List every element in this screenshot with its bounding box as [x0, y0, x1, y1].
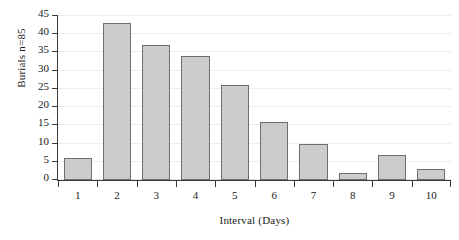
y-axis-tick-mark	[52, 88, 58, 89]
x-axis-tick-mark	[58, 181, 59, 187]
y-axis-tick-label: 0	[44, 172, 50, 183]
bar-slot	[372, 16, 411, 180]
bar[interactable]	[181, 56, 209, 180]
x-axis-tick-label: 1	[58, 189, 97, 202]
x-axis-tick-label: 10	[412, 189, 451, 202]
y-axis-tick-mark	[52, 33, 58, 34]
x-axis-tick-mark	[372, 181, 373, 187]
y-axis-tick-label: 30	[38, 63, 49, 74]
x-axis-tick-mark	[255, 181, 256, 187]
x-axis-tick-mark	[412, 181, 413, 187]
y-axis-tick-mark	[52, 124, 58, 125]
bar[interactable]	[142, 45, 170, 180]
bar[interactable]	[260, 122, 288, 180]
bar-slot	[412, 16, 451, 180]
y-axis-tick-label: 25	[38, 81, 49, 92]
bar[interactable]	[339, 173, 367, 180]
x-axis-tick-label: 7	[294, 189, 333, 202]
x-axis-tick-label: 6	[254, 189, 293, 202]
bar-slot	[97, 16, 136, 180]
x-axis-tick-label: 4	[176, 189, 215, 202]
bar[interactable]	[378, 155, 406, 181]
bar-slot	[176, 16, 215, 180]
y-axis-tick-mark	[52, 70, 58, 71]
x-axis-tick-mark	[176, 181, 177, 187]
x-axis-tick-mark	[450, 181, 451, 187]
y-axis-tick-label: 20	[38, 99, 49, 110]
x-axis-tick-labels: 12345678910	[58, 189, 451, 202]
bar[interactable]	[299, 144, 327, 180]
y-axis-tick-mark	[52, 51, 58, 52]
x-axis-tick-mark	[333, 181, 334, 187]
x-axis-tick-mark	[215, 181, 216, 187]
y-axis-tick-mark	[52, 15, 58, 16]
bar[interactable]	[417, 169, 445, 180]
bar-slot	[137, 16, 176, 180]
bars-layer	[58, 16, 451, 180]
y-axis-tick-mark	[52, 143, 58, 144]
y-axis-tick-label: 10	[38, 136, 49, 147]
plot-area	[58, 16, 451, 180]
x-axis-tick-label: 2	[97, 189, 136, 202]
x-axis-tick-label: 5	[215, 189, 254, 202]
bar[interactable]	[103, 23, 131, 180]
y-axis-tick-label: 40	[38, 26, 49, 37]
bar-slot	[215, 16, 254, 180]
y-axis-ticks: 051015202530354045	[0, 16, 58, 180]
x-axis-title: Interval (Days)	[58, 214, 451, 226]
x-axis-tick-label: 3	[137, 189, 176, 202]
x-axis-tick-label: 8	[333, 189, 372, 202]
x-axis-tick-mark	[294, 181, 295, 187]
bar-slot	[58, 16, 97, 180]
y-axis-tick-mark	[52, 106, 58, 107]
x-axis-tick-mark	[137, 181, 138, 187]
x-axis-tick-mark	[97, 181, 98, 187]
x-axis-tick-label: 9	[372, 189, 411, 202]
bar[interactable]	[221, 85, 249, 180]
bar[interactable]	[64, 158, 92, 180]
y-axis-tick-label: 5	[44, 154, 50, 165]
bar-slot	[294, 16, 333, 180]
y-axis-tick-label: 15	[38, 117, 49, 128]
y-axis-tick-mark	[52, 161, 58, 162]
bar-chart-figure: Burials n=85 051015202530354045 12345678…	[0, 0, 459, 240]
y-axis-tick-label: 35	[38, 44, 49, 55]
bar-slot	[333, 16, 372, 180]
x-axis-ticks	[58, 181, 451, 187]
bar-slot	[254, 16, 293, 180]
y-axis-tick-label: 45	[38, 8, 49, 19]
